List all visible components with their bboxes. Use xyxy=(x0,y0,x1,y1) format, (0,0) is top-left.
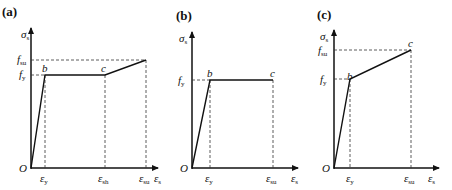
eps-su-label: εsu xyxy=(404,172,415,186)
y-axis-label: σs xyxy=(21,28,29,42)
point-c-label: c xyxy=(408,37,413,49)
eps-y-label: εy xyxy=(40,172,48,186)
x-axis-label: εs xyxy=(428,172,435,186)
guide-lines xyxy=(192,80,273,168)
guide-lines xyxy=(31,60,146,168)
eps-su-label: εsu xyxy=(139,172,150,186)
point-c-label: c xyxy=(101,62,106,74)
panel-b-label: (b) xyxy=(176,8,192,23)
origin-label: O xyxy=(322,162,330,174)
eps-y-label: εy xyxy=(205,172,213,186)
f-su-label: fsu xyxy=(17,53,27,67)
x-axis-label: εs xyxy=(291,172,298,186)
origin-label: O xyxy=(19,162,27,174)
origin-label: O xyxy=(180,162,188,174)
f-y-label: fy xyxy=(320,73,327,87)
point-b-label: b xyxy=(207,67,213,79)
f-su-label: fsu xyxy=(318,44,328,58)
stress-strain-curve xyxy=(192,80,273,168)
panel-c-label: (c) xyxy=(317,7,331,22)
y-axis-label: σs xyxy=(179,32,187,46)
eps-y-label: εy xyxy=(346,172,354,186)
eps-su-label: εsu xyxy=(266,172,277,186)
stress-strain-diagrams: (a) σs fsu fy b c O εy εsh εsu εs (b) xyxy=(0,0,452,190)
panel-c: (c) σs fsu fy b c O εy εsu εs xyxy=(317,7,439,186)
point-b-label: b xyxy=(42,62,48,74)
eps-sh-label: εsh xyxy=(98,172,109,186)
panel-b: (b) σs fy b c O εy εsu εs xyxy=(176,8,298,186)
panel-a: (a) σs fsu fy b c O εy εsh εsu εs xyxy=(2,4,161,186)
f-y-label: fy xyxy=(19,68,26,82)
point-b-label: b xyxy=(347,70,353,82)
panel-a-label: (a) xyxy=(2,4,17,19)
stress-strain-curve xyxy=(334,50,411,168)
y-axis-label: σs xyxy=(320,30,328,44)
f-y-label: fy xyxy=(178,74,185,88)
stress-strain-curve xyxy=(31,60,146,168)
x-axis-label: εs xyxy=(154,172,161,186)
point-c-label: c xyxy=(270,67,275,79)
